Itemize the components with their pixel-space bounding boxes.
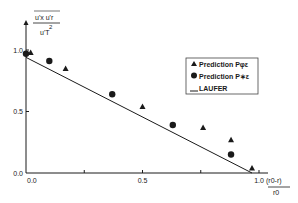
- ylabel-numerator: u'x u'r: [35, 14, 54, 21]
- ylabel-exponent: 2: [49, 24, 53, 30]
- triangle-marker-icon: [249, 165, 255, 171]
- circle-marker-icon: [228, 151, 234, 157]
- triangle-marker-icon: [200, 124, 206, 130]
- legend-label: LAUFER: [199, 85, 227, 92]
- y-tick-label: 0.5: [13, 108, 23, 115]
- axes: 0.00.51.00.00.51.0: [13, 20, 268, 184]
- x-tick-label: 0.0: [27, 177, 37, 184]
- chart-svg: 0.00.51.00.00.51.0 Prediction PφεPredict…: [0, 0, 298, 203]
- x-tick-label: 1.0: [254, 177, 264, 184]
- ylabel-denominator: u'T: [40, 29, 50, 36]
- x-tick-label: 0.5: [138, 177, 148, 184]
- legend-label: Prediction P∗ε: [199, 73, 250, 80]
- y-tick-label: 0.0: [13, 170, 23, 177]
- chart-container: 0.00.51.00.00.51.0 Prediction PφεPredict…: [0, 0, 298, 203]
- y-tick-label: 1.0: [13, 47, 23, 54]
- legend: Prediction PφεPrediction P∗εLAUFER: [186, 58, 258, 94]
- xlabel-numerator: (r0-r): [266, 177, 282, 185]
- legend-triangle-icon: [191, 61, 197, 66]
- triangle-marker-icon: [140, 104, 146, 110]
- xlabel-denominator: r0: [273, 189, 279, 196]
- legend-circle-icon: [191, 73, 197, 79]
- legend-label: Prediction Pφε: [199, 61, 249, 69]
- circle-marker-icon: [109, 91, 115, 97]
- triangle-marker-icon: [228, 137, 234, 143]
- circle-marker-icon: [23, 50, 29, 56]
- triangle-marker-icon: [63, 65, 69, 71]
- circle-marker-icon: [170, 122, 176, 128]
- circle-marker-icon: [46, 58, 52, 64]
- y-axis-arrow-icon: [24, 20, 29, 25]
